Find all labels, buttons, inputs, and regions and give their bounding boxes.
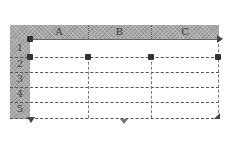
row-header-4[interactable]: 4 [10,88,30,99]
resize-handle-icon[interactable] [27,36,33,42]
resize-handle-icon[interactable] [148,54,154,60]
triangle-down-icon[interactable] [120,119,128,124]
column-header-bar: A B C [10,25,219,39]
grid-line-row [10,72,219,73]
column-header-c[interactable]: C [151,25,219,39]
grid-line-bottom [10,118,219,119]
grid-line-top [30,39,219,40]
column-header-a[interactable]: A [30,25,88,39]
add-column-arrow-icon[interactable] [217,35,223,43]
grid-line-row [10,87,219,88]
column-header-b[interactable]: B [88,25,151,39]
add-row-arrow-icon[interactable] [27,117,35,123]
resize-handle-icon[interactable] [215,54,221,60]
grid-line-col [88,57,89,118]
row-header-5[interactable]: 5 [10,103,30,114]
column-divider[interactable] [88,25,89,39]
grid-line-row [10,102,219,103]
resize-handle-icon[interactable] [27,54,33,60]
resize-handle-icon[interactable] [85,54,91,60]
row-header-bar: 1 2 3 4 5 [10,39,30,119]
grid-line-right [218,39,219,118]
grid-line-row [10,57,219,58]
row-header-1[interactable]: 1 [10,42,30,53]
grid-line-col [151,57,152,118]
row-header-3[interactable]: 3 [10,73,30,84]
corner-resize-arrow-icon[interactable] [214,113,220,119]
column-divider[interactable] [151,25,152,39]
